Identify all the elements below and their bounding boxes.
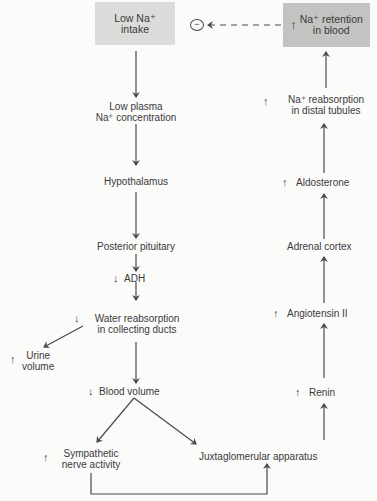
node-label: Juxtaglomerular apparatus: [199, 451, 317, 462]
node-label: ADH: [124, 273, 145, 284]
node-label: Adrenal cortex: [287, 241, 351, 252]
adh-node: ADH: [124, 273, 145, 284]
node-label: Blood volume: [99, 386, 160, 397]
node-label: Na⁺ reabsorption: [278, 94, 374, 105]
na-retention-line2: in blood: [300, 25, 363, 36]
urine-volume-node: Urine volume: [22, 350, 54, 372]
na-reabsorption-node: Na⁺ reabsorption in distal tubules: [278, 94, 374, 116]
up-arrow-icon: ↑: [295, 386, 301, 398]
down-arrow-icon: ↓: [113, 272, 119, 284]
node-label: Sympathetic: [56, 448, 126, 459]
node-label: Na⁺ concentration: [86, 112, 186, 123]
node-label: in collecting ducts: [85, 324, 189, 335]
adrenal-cortex-node: Adrenal cortex: [287, 241, 351, 252]
aldosterone-node: Aldosterone: [296, 177, 349, 188]
up-arrow-icon: ↑: [10, 353, 16, 365]
node-label: Hypothalamus: [86, 176, 186, 187]
node-label: Posterior pituitary: [76, 241, 196, 252]
posterior-pituitary-node: Posterior pituitary: [76, 241, 196, 252]
node-label: in distal tubules: [278, 105, 374, 116]
node-label: Renin: [309, 387, 335, 398]
blood-volume-node: Blood volume: [99, 386, 160, 397]
up-arrow-icon: ↑: [43, 451, 49, 463]
up-arrow-icon: ↑: [282, 176, 288, 188]
node-label: Angiotensin II: [287, 308, 348, 319]
low-na-intake-line1: Low Na⁺: [114, 13, 156, 24]
up-arrow-icon: ↑: [273, 307, 279, 319]
up-arrow-icon: ↑: [290, 19, 297, 31]
water-reabsorption-node: Water reabsorption in collecting ducts: [85, 313, 189, 335]
na-retention-box: ↑ Na⁺ retention in blood: [283, 3, 370, 47]
node-label: Urine: [22, 350, 54, 361]
low-plasma-na-node: Low plasma Na⁺ concentration: [86, 101, 186, 123]
low-na-intake-box: Low Na⁺ intake: [95, 2, 175, 45]
angiotensin-node: Angiotensin II: [287, 308, 348, 319]
sympathetic-node: Sympathetic nerve activity: [56, 448, 126, 470]
low-na-intake-line2: intake: [114, 24, 156, 35]
hypothalamus-node: Hypothalamus: [86, 176, 186, 187]
node-label: Aldosterone: [296, 177, 349, 188]
juxtaglomerular-node: Juxtaglomerular apparatus: [199, 451, 317, 462]
node-label: Water reabsorption: [85, 313, 189, 324]
down-arrow-icon: ↓: [88, 385, 94, 397]
node-label: Low plasma: [86, 101, 186, 112]
node-label: volume: [22, 361, 54, 372]
renin-node: Renin: [309, 387, 335, 398]
down-arrow-icon: ↓: [74, 312, 80, 324]
node-label: nerve activity: [56, 459, 126, 470]
up-arrow-icon: ↑: [263, 95, 269, 107]
negative-feedback-icon: −: [190, 19, 204, 31]
